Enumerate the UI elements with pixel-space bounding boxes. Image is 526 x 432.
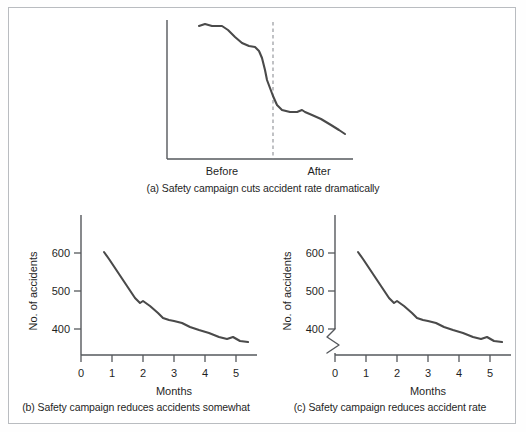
chart-b-x-label-2: 2 [140, 367, 146, 379]
chart-c: 600 500 400 0 1 2 3 4 5 Months No. of ac… [263, 205, 517, 401]
chart-b-y-axis-title: No. of accidents [27, 251, 39, 330]
chart-a-caption: (a) Safety campaign cuts accident rate d… [9, 182, 517, 194]
chart-a-label-before: Before [206, 165, 238, 177]
panel-c: 600 500 400 0 1 2 3 4 5 Months No. of ac… [263, 205, 517, 425]
chart-b-x-label-4: 4 [202, 367, 208, 379]
chart-b-x-label-3: 3 [171, 367, 177, 379]
panel-b: 600 500 400 0 1 2 3 4 5 Months No. of ac… [9, 205, 263, 425]
chart-c-x-label-5: 5 [487, 367, 493, 379]
chart-a: Before After [9, 8, 517, 183]
chart-c-x-label-1: 1 [363, 367, 369, 379]
chart-c-y-label-600: 600 [306, 247, 324, 259]
chart-b-x-axis-title: Months [156, 385, 193, 397]
chart-b-y-label-500: 500 [52, 285, 70, 297]
chart-b-x-label-1: 1 [109, 367, 115, 379]
figure-frame: Before After (a) Safety campaign cuts ac… [8, 7, 516, 424]
chart-c-x-label-0: 0 [332, 367, 338, 379]
figure-root: Before After (a) Safety campaign cuts ac… [0, 0, 526, 432]
chart-c-y-label-400: 400 [306, 323, 324, 335]
chart-b: 600 500 400 0 1 2 3 4 5 Months No. of ac… [9, 205, 263, 401]
chart-b-x-label-5: 5 [233, 367, 239, 379]
chart-c-y-label-500: 500 [306, 285, 324, 297]
chart-c-x-label-4: 4 [456, 367, 462, 379]
chart-c-x-axis-title: Months [410, 385, 447, 397]
chart-c-x-label-3: 3 [425, 367, 431, 379]
chart-b-y-label-600: 600 [52, 247, 70, 259]
chart-a-data-line [199, 24, 345, 134]
chart-c-caption: (c) Safety campaign reduces accident rat… [263, 401, 517, 413]
chart-c-data-line [358, 252, 502, 342]
chart-b-y-label-400: 400 [52, 323, 70, 335]
chart-b-data-line [104, 252, 248, 342]
chart-a-label-after: After [307, 165, 331, 177]
chart-b-caption: (b) Safety campaign reduces accidents so… [9, 401, 263, 413]
chart-b-x-label-0: 0 [78, 367, 84, 379]
chart-c-x-label-2: 2 [394, 367, 400, 379]
panel-a: Before After (a) Safety campaign cuts ac… [9, 8, 517, 205]
chart-c-axis-break-zigzag-icon [327, 329, 339, 353]
chart-c-y-axis-title: No. of accidents [281, 251, 293, 330]
